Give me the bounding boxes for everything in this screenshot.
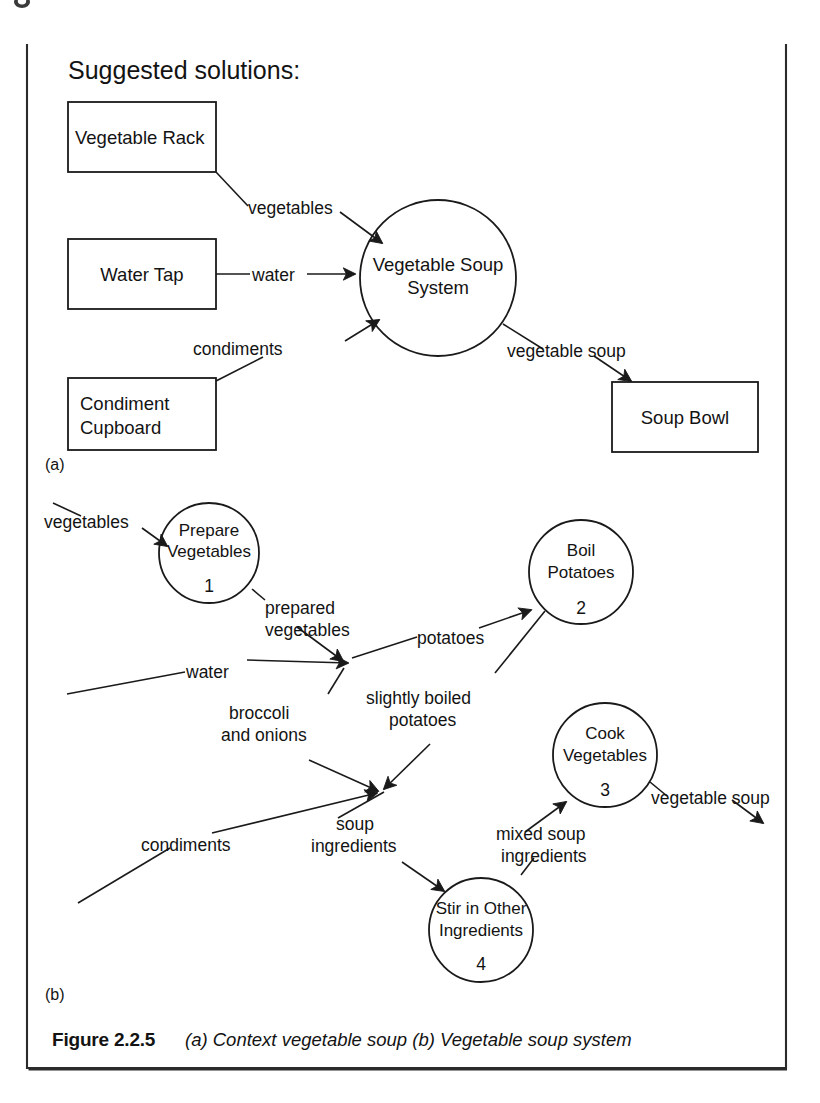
figure-caption: Figure 2.2.5 (a) Context vegetable soup … [52,1029,632,1050]
scan-artifact [14,0,30,8]
entity-soup-bowl[interactable]: Soup Bowl [612,382,758,452]
flow-b-water-label: water [185,662,229,682]
flow-vegetable-soup-a-label: vegetable soup [507,341,626,361]
process-vegetable-soup-system[interactable]: Vegetable Soup System [360,200,516,356]
diagram-b: Prepare Vegetables 1 Boil Potatoes 2 Coo… [44,503,770,1003]
flow-vegetables-label: vegetables [248,198,333,218]
process-stir-in-other-ingredients-label-line1: Stir in Other [436,899,527,918]
flow-condiments: condiments [193,320,379,381]
flow-b-prepared-vegetables: prepared vegetables [252,589,350,661]
flow-b-vegetable-soup-label: vegetable soup [651,788,770,808]
process-stir-in-other-ingredients-number: 4 [476,954,486,974]
flow-b-slightly-boiled-potatoes-label-line1: slightly boiled [366,688,471,708]
process-prepare-vegetables-number: 1 [204,576,214,596]
entity-water-tap[interactable]: Water Tap [68,239,216,309]
process-stir-in-other-ingredients-label-line2: Ingredients [439,921,523,940]
flow-b-mixed-soup-ingredients-label-line2: ingredients [501,846,587,866]
entity-condiment-cupboard-label-line2: Cupboard [80,417,161,438]
part-a-label: (a) [45,456,65,473]
flow-vegetables: vegetables [216,172,382,243]
figure-page: Suggested solutions: Vegetable Rack Wate… [0,0,820,1103]
process-cook-vegetables[interactable]: Cook Vegetables 3 [553,703,657,807]
flow-b-condiments-label: condiments [141,835,231,855]
part-b-label: (b) [45,986,65,1003]
flow-b-mixed-soup-ingredients-label-line1: mixed soup [496,824,586,844]
entity-vegetable-rack-label: Vegetable Rack [75,127,205,148]
figure-canvas: Suggested solutions: Vegetable Rack Wate… [0,0,820,1103]
process-prepare-vegetables[interactable]: Prepare Vegetables 1 [159,503,259,603]
process-cook-vegetables-label-line2: Vegetables [563,746,647,765]
flow-b-prepared-vegetables-label-line1: prepared [265,598,335,618]
flow-b-mixed-soup-ingredients: mixed soup ingredients [496,802,587,875]
flow-b-slightly-boiled-potatoes-label-line2: potatoes [389,710,456,730]
process-prepare-vegetables-label-line1: Prepare [179,521,239,540]
flow-b-broccoli-and-onions-label-line2: and onions [221,725,307,745]
flow-b-broccoli-and-onions-label-line1: broccoli [229,703,289,723]
entity-vegetable-rack[interactable]: Vegetable Rack [68,102,216,172]
figure-frame [27,44,787,1070]
flow-water: water [216,265,355,285]
process-boil-potatoes-label-line2: Potatoes [547,563,614,582]
process-prepare-vegetables-label-line2: Vegetables [167,542,251,561]
process-cook-vegetables-label-line1: Cook [585,724,625,743]
flow-b-soup-ingredients-label-line2: ingredients [311,836,397,856]
process-vegetable-soup-system-label-line1: Vegetable Soup [373,254,504,275]
process-boil-potatoes-label-line1: Boil [567,541,595,560]
entity-soup-bowl-label: Soup Bowl [641,407,729,428]
flow-b-vegetables: vegetables [44,503,167,546]
flow-b-potatoes: potatoes [352,610,531,658]
flow-b-prepared-vegetables-label-line2: vegetables [265,620,350,640]
flow-b-broccoli-and-onions: broccoli and onions [221,668,378,791]
entity-condiment-cupboard[interactable]: Condiment Cupboard [68,378,216,450]
flow-b-soup-ingredients-label-line1: soup [336,814,374,834]
flow-b-vegetables-label: vegetables [44,512,129,532]
flow-vegetable-soup-a: vegetable soup [503,324,631,381]
process-vegetable-soup-system-label-line2: System [407,277,469,298]
entity-water-tap-label: Water Tap [100,264,183,285]
flow-b-water: water [67,660,348,694]
flow-water-label: water [251,265,295,285]
flow-condiments-label: condiments [193,339,283,359]
process-boil-potatoes-number: 2 [576,598,586,618]
process-boil-potatoes[interactable]: Boil Potatoes 2 [529,520,633,624]
caption-number: Figure 2.2.5 [52,1029,156,1050]
process-stir-in-other-ingredients[interactable]: Stir in Other Ingredients 4 [429,878,533,982]
flow-b-potatoes-label: potatoes [417,628,484,648]
flow-b-soup-ingredients: soup ingredients [311,792,444,891]
entity-condiment-cupboard-label-line1: Condiment [80,393,169,414]
flow-b-vegetable-soup: vegetable soup [650,782,770,823]
suggested-solutions-heading: Suggested solutions: [68,56,300,84]
diagram-a: Suggested solutions: Vegetable Rack Wate… [45,56,758,473]
caption-text: (a) Context vegetable soup (b) Vegetable… [185,1029,632,1050]
process-cook-vegetables-number: 3 [600,780,610,800]
